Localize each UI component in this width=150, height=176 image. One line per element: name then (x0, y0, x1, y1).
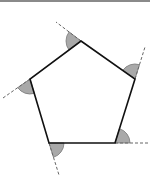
pentagon-diagram (0, 0, 150, 176)
extension-line-right (135, 47, 145, 79)
pentagon-shape (30, 41, 135, 143)
